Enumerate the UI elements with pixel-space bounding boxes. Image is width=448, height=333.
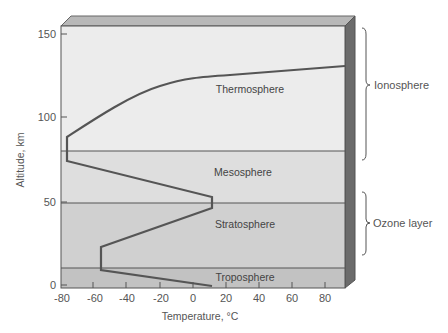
atmosphere-diagram: 150 100 50 0 -80 -60 -40 -20 0 20 40 60 … [0, 0, 448, 333]
x-tick-label: 60 [286, 292, 298, 304]
label-ozone-layer: Ozone layer [373, 217, 433, 229]
label-ionosphere: Ionosphere [374, 79, 429, 91]
x-axis-label: Temperature, °C [162, 310, 239, 322]
layer-stratosphere [61, 203, 345, 268]
box-side-face [345, 16, 355, 288]
x-tick-label: -40 [119, 292, 135, 304]
x-tick-label: -20 [153, 292, 169, 304]
y-tick-label: 150 [38, 28, 56, 40]
label-mesosphere: Mesosphere [214, 166, 272, 178]
y-tick-label: 0 [50, 279, 56, 291]
label-stratosphere: Stratosphere [215, 218, 275, 230]
x-tick-label: 0 [190, 292, 196, 304]
label-troposphere: Troposphere [215, 271, 274, 283]
x-tick-label: 80 [319, 292, 331, 304]
x-tick-label: 20 [220, 292, 232, 304]
label-thermosphere: Thermosphere [216, 83, 284, 95]
y-tick-label: 100 [38, 111, 56, 123]
ozone-brace [362, 192, 370, 255]
y-axis-label: Altitude, km [14, 132, 26, 187]
box-top-face [61, 16, 355, 26]
x-tick-label: -60 [87, 292, 103, 304]
y-tick-label: 50 [44, 196, 56, 208]
x-tick-label: -80 [54, 292, 70, 304]
x-tick-label: 40 [253, 292, 265, 304]
ionosphere-brace [362, 28, 370, 160]
layer-thermosphere [61, 26, 345, 151]
